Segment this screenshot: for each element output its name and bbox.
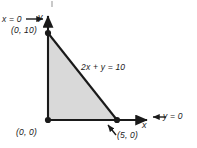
y-axis-constraint-label: x = 0	[2, 14, 22, 24]
feasible-region-diagram: x = 0 (0, 10) y 2x + y = 10 x y = 0 (0, …	[0, 0, 197, 148]
line-equation-label: 2x + y = 10	[81, 62, 125, 72]
vertex-dot-5-0	[114, 117, 120, 123]
y-axis-label: y	[38, 12, 43, 22]
x-axis-constraint-label: y = 0	[163, 111, 183, 121]
vertex-label-5-0: (5, 0)	[117, 130, 138, 140]
vertex-label-0-10: (0, 10)	[11, 25, 37, 35]
vertex-dot-0-0	[45, 117, 51, 123]
point-5-0-pointer-arrow	[108, 125, 116, 135]
x-axis-label: x	[142, 120, 147, 130]
diagram-canvas	[0, 0, 197, 148]
vertex-label-0-0: (0, 0)	[16, 127, 37, 137]
vertex-dot-0-10	[45, 30, 51, 36]
